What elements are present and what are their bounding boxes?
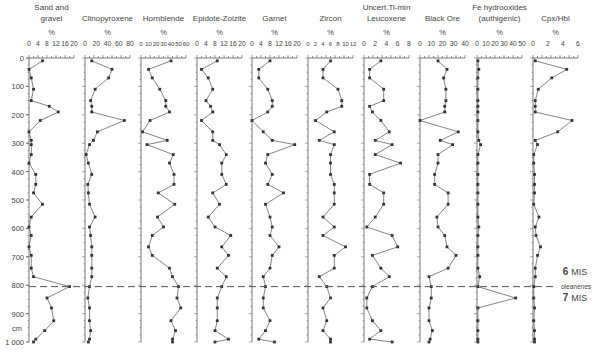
data-point: [271, 105, 274, 108]
data-point: [329, 153, 332, 156]
data-point: [443, 105, 446, 108]
data-point: [371, 319, 374, 322]
panel-title: Fe hydrooxides: [472, 3, 527, 12]
data-point: [28, 226, 31, 229]
data-point: [534, 59, 537, 62]
data-point: [322, 307, 325, 310]
panel-title: (authigenic): [479, 14, 521, 23]
x-tick-label: 6: [576, 40, 580, 47]
data-point: [477, 341, 480, 344]
data-point: [391, 341, 394, 344]
data-point: [214, 226, 217, 229]
oleanenes-label: oleanenes: [561, 283, 592, 290]
depth-tick-label: 700: [11, 253, 24, 262]
panel-uncert-ti-min-leucoxene: Uncert.Ti-minLeucoxene%02468: [361, 3, 411, 343]
x-tick-label: 20: [238, 40, 246, 47]
data-point: [166, 139, 169, 142]
data-point: [111, 68, 114, 71]
data-point: [533, 192, 536, 195]
data-point: [322, 329, 325, 332]
data-point: [477, 105, 480, 108]
data-point: [269, 319, 272, 322]
data-point: [477, 267, 480, 270]
data-point: [447, 192, 450, 195]
data-point: [262, 275, 265, 278]
data-point: [439, 139, 442, 142]
x-tick-label: 0: [418, 40, 422, 47]
panel-garnet: Garnet%048121620: [249, 14, 301, 343]
data-point: [532, 319, 535, 322]
data-point: [451, 143, 454, 146]
data-point: [205, 99, 208, 102]
data-point: [87, 192, 90, 195]
x-tick-label: 80: [126, 40, 134, 47]
profile-line: [316, 61, 346, 342]
data-point: [477, 329, 480, 332]
data-point: [477, 59, 480, 62]
data-point: [329, 173, 332, 176]
data-point: [266, 111, 269, 114]
data-point: [368, 183, 371, 186]
data-point: [207, 216, 210, 219]
data-point: [52, 319, 55, 322]
data-point: [89, 99, 92, 102]
unit-label: %: [216, 28, 223, 37]
x-tick-label: 20: [153, 41, 160, 47]
depth-axis: 01002003004005006007008009001 000cm: [5, 54, 29, 347]
unit-label: %: [552, 28, 559, 37]
data-point: [87, 341, 90, 344]
data-point: [514, 297, 517, 300]
data-point: [271, 139, 274, 142]
x-tick-label: 40: [461, 40, 469, 47]
data-point: [477, 173, 480, 176]
data-point: [89, 234, 92, 237]
data-point: [534, 105, 537, 108]
data-point: [216, 59, 219, 62]
data-point: [365, 297, 368, 300]
data-point: [477, 254, 480, 257]
data-point: [211, 130, 214, 133]
data-point: [447, 267, 450, 270]
data-point: [533, 183, 536, 186]
depth-tick-label: 600: [11, 224, 24, 233]
data-point: [88, 307, 91, 310]
data-point: [171, 341, 174, 344]
data-point: [322, 234, 325, 237]
x-tick-label: 50: [518, 40, 526, 47]
data-point: [85, 153, 88, 156]
profile-line: [143, 61, 181, 342]
x-tick-label: 0: [306, 41, 310, 47]
mineral-depth-profiles-chart: 01002003004005006007008009001 000cm Sand…: [0, 0, 595, 356]
unit-label: %: [496, 28, 503, 37]
data-point: [446, 245, 449, 248]
data-point: [534, 275, 537, 278]
x-tick-label: 0: [475, 40, 479, 47]
data-point: [443, 234, 446, 237]
data-point: [32, 192, 35, 195]
panel-hornblende: Hornblende%0102030405060: [138, 14, 190, 343]
data-point: [88, 338, 91, 341]
data-point: [257, 68, 260, 71]
x-tick-label: 4: [36, 40, 40, 47]
x-tick-label: 6: [396, 40, 400, 47]
x-tick-label: 30: [450, 40, 458, 47]
depth-unit-label: cm: [12, 324, 22, 333]
data-point: [273, 341, 276, 344]
data-point: [30, 99, 33, 102]
data-point: [30, 139, 33, 142]
unit-label: %: [439, 28, 446, 37]
data-point: [151, 234, 154, 237]
data-point: [479, 143, 482, 146]
data-point: [365, 307, 368, 310]
depth-tick-label: 100: [11, 82, 24, 91]
data-point: [216, 319, 219, 322]
data-point: [211, 139, 214, 142]
data-point: [28, 68, 31, 71]
data-point: [539, 245, 542, 248]
panel-title: Epidote-Zoizite: [193, 14, 247, 23]
data-point: [211, 192, 214, 195]
x-tick-label: 8: [407, 40, 411, 47]
data-point: [322, 68, 325, 71]
x-tick-label: 30: [160, 41, 167, 47]
x-tick-label: 20: [293, 40, 301, 47]
